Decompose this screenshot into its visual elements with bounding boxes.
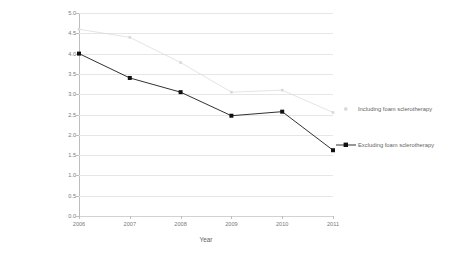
y-axis-tick-label: 4.0	[60, 51, 76, 57]
y-axis-tick-label: 1.0	[60, 172, 76, 178]
y-axis-tick-label: 1.5	[60, 152, 76, 158]
data-point-marker	[331, 148, 335, 152]
data-point-marker	[129, 36, 132, 39]
x-axis-tick-labels: 200620072008200920102011	[79, 220, 333, 230]
legend-marker-icon	[336, 104, 356, 114]
data-point-marker	[230, 91, 233, 94]
data-point-marker	[229, 114, 233, 118]
y-axis-tick-label: 5.0	[60, 10, 76, 16]
x-axis-tick-label: 2009	[218, 220, 244, 228]
x-axis-tick-mark	[181, 216, 182, 219]
data-point-marker	[78, 28, 81, 31]
gridline	[79, 216, 333, 217]
y-axis-tick-label: 0.0	[60, 213, 76, 219]
data-point-marker	[128, 76, 132, 80]
x-axis-tick-mark	[79, 216, 80, 219]
x-axis-tick-label: 2007	[117, 220, 143, 228]
y-axis-tick-labels: 5.04.54.03.53.02.52.01.51.00.50.0	[58, 13, 76, 216]
data-point-marker	[280, 110, 284, 114]
x-axis-tick-label: 2011	[320, 220, 346, 228]
plot-area	[79, 13, 333, 216]
x-axis-tick-mark	[333, 216, 334, 219]
y-axis-tick-label: 2.5	[60, 112, 76, 118]
y-axis-tick-label: 2.0	[60, 132, 76, 138]
data-point-marker	[332, 111, 335, 114]
series-line	[79, 54, 333, 151]
y-axis-tick-label: 0.5	[60, 193, 76, 199]
series-including	[78, 28, 335, 114]
data-point-marker	[179, 90, 183, 94]
y-axis-tick-label: 4.5	[60, 30, 76, 36]
x-axis-title: Year	[79, 236, 333, 243]
chart-legend: Including foam sclerotherapy Excluding f…	[336, 104, 454, 160]
data-point-marker	[77, 52, 81, 56]
x-axis-tick-label: 2008	[168, 220, 194, 228]
series-layer	[79, 13, 333, 216]
y-axis-tick-label: 3.0	[60, 91, 76, 97]
y-axis-tick-label: 3.5	[60, 71, 76, 77]
x-axis-tick-mark	[231, 216, 232, 219]
legend-marker-line-icon	[336, 140, 356, 150]
line-chart: Mean Sessions per patient 5.04.54.03.53.…	[0, 0, 454, 257]
x-axis-tick-label: 2010	[269, 220, 295, 228]
legend-label-including: Including foam sclerotherapy	[358, 104, 432, 114]
data-point-marker	[281, 89, 284, 92]
x-axis-tick-mark	[130, 216, 131, 219]
x-axis-tick-mark	[282, 216, 283, 219]
series-excluding	[77, 52, 335, 153]
x-axis-tick-label: 2006	[66, 220, 92, 228]
series-line	[79, 29, 333, 112]
data-point-marker	[179, 61, 182, 64]
legend-label-excluding: Excluding foam sclerotherapy	[358, 140, 434, 150]
